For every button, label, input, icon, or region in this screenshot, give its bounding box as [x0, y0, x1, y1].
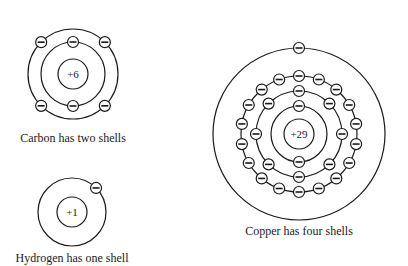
- atom-carbon: +6Carbon has two shells: [20, 29, 126, 145]
- electron-minus-icon: [236, 139, 247, 150]
- electron-minus-icon: [344, 158, 355, 169]
- atomic-shell-diagram: +6Carbon has two shells+1Hydrogen has on…: [0, 0, 408, 266]
- electron-minus-icon: [236, 118, 247, 129]
- electron-minus-icon: [68, 37, 79, 48]
- electron-minus-icon: [294, 43, 305, 54]
- electron-minus-icon: [263, 98, 274, 109]
- copper-caption: Copper has four shells: [245, 224, 353, 238]
- electron-minus-icon: [294, 101, 305, 112]
- electron-minus-icon: [294, 86, 305, 97]
- electron-minus-icon: [313, 183, 324, 194]
- electron-minus-icon: [324, 98, 335, 109]
- atom-copper: +29Copper has four shells: [213, 43, 385, 239]
- electron-minus-icon: [263, 159, 274, 170]
- electron-minus-icon: [99, 37, 110, 48]
- electron-minus-icon: [36, 100, 47, 111]
- electron-minus-icon: [351, 118, 362, 129]
- electron-minus-icon: [91, 182, 102, 193]
- atom-hydrogen: +1Hydrogen has one shell: [16, 178, 130, 265]
- electron-minus-icon: [243, 158, 254, 169]
- electron-minus-icon: [331, 84, 342, 95]
- electron-minus-icon: [313, 74, 324, 85]
- hydrogen-caption: Hydrogen has one shell: [16, 251, 130, 265]
- electron-minus-icon: [243, 100, 254, 111]
- electron-minus-icon: [274, 74, 285, 85]
- electron-minus-icon: [36, 37, 47, 48]
- electron-minus-icon: [256, 84, 267, 95]
- electron-minus-icon: [294, 71, 305, 82]
- electron-minus-icon: [344, 100, 355, 111]
- carbon-caption: Carbon has two shells: [20, 131, 126, 145]
- electron-minus-icon: [331, 173, 342, 184]
- hydrogen-nucleus-label: +1: [66, 206, 78, 218]
- electron-minus-icon: [294, 172, 305, 183]
- electron-minus-icon: [351, 139, 362, 150]
- electron-minus-icon: [274, 183, 285, 194]
- copper-nucleus-label: +29: [290, 128, 308, 140]
- electron-minus-icon: [337, 129, 348, 140]
- electron-minus-icon: [68, 101, 79, 112]
- electron-minus-icon: [324, 159, 335, 170]
- electron-minus-icon: [294, 157, 305, 168]
- electron-minus-icon: [294, 187, 305, 198]
- electron-minus-icon: [256, 173, 267, 184]
- electron-minus-icon: [99, 100, 110, 111]
- electron-minus-icon: [251, 129, 262, 140]
- carbon-nucleus-label: +6: [67, 68, 79, 80]
